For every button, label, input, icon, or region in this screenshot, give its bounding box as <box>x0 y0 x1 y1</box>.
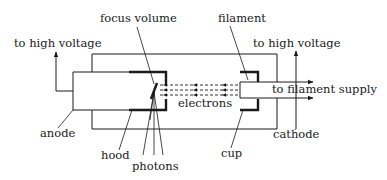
label-anode: anode <box>40 128 75 140</box>
label-photons: photons <box>132 161 179 173</box>
photon-rays <box>143 92 163 155</box>
label-hood: hood <box>101 150 130 162</box>
label-electrons: electrons <box>178 98 232 110</box>
label-high-voltage-right: to high voltage <box>253 38 340 50</box>
anode-high-voltage-lead <box>56 52 73 91</box>
label-focus-volume: focus volume <box>100 13 177 25</box>
cathode-housing <box>92 54 277 129</box>
label-filament-supply: to filament supply <box>272 84 377 96</box>
hood <box>129 72 166 110</box>
label-filament: filament <box>218 13 266 25</box>
label-cathode: cathode <box>273 129 319 141</box>
label-cup: cup <box>221 148 242 160</box>
cup <box>240 72 258 110</box>
label-high-voltage-left: to high voltage <box>14 38 101 50</box>
